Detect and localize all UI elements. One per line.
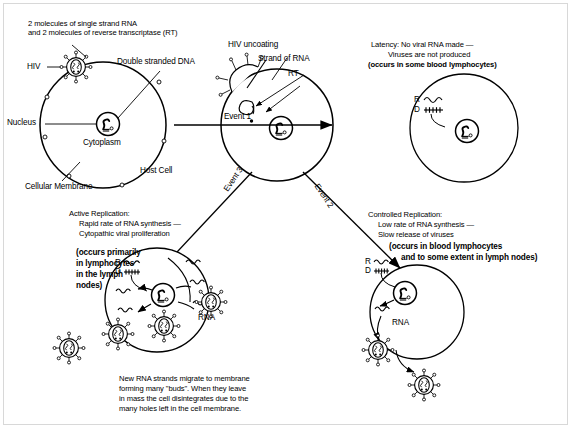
controlled-replication-paren1: (occurs in blood lymphocytes — [389, 242, 502, 252]
rna-rt-note-label: 2 molecules of single strand RNA and 2 m… — [28, 20, 177, 38]
latency-line1: Latency: No viral RNA made — — [371, 41, 473, 50]
active-replication-paren4: nodes) — [76, 281, 102, 291]
caption-line3: in mass the cell disintegrates due to th… — [119, 395, 248, 404]
active-replication-paren2: in lymphocytes — [76, 259, 134, 269]
latency-dna-key: D — [414, 105, 420, 115]
controlled-replication-line1: Controlled Replication: — [368, 211, 442, 220]
dna-ladder-icon — [374, 269, 389, 274]
double-stranded-dna-label: Double stranded DNA — [117, 57, 195, 67]
active-replication-line1: Active Replication: — [69, 210, 130, 219]
strand-of-rna-label: Strand of RNA — [258, 54, 310, 64]
host-cell-label: Host Cell — [140, 166, 172, 176]
hiv-label: HIV — [27, 62, 40, 72]
caption-line4: many holes left in the cell membrane. — [119, 405, 241, 414]
controlled-replication-line3: Slow release of viruses — [378, 231, 454, 240]
host-cell-latency — [410, 74, 518, 182]
dna-ladder-icon — [124, 269, 140, 274]
rna-squiggle-icon — [374, 260, 388, 264]
controlled-dna-key: D — [365, 266, 371, 276]
latency-line3: (occurs in some blood lymphocytes) — [368, 61, 497, 70]
latency-line2: Viruses are not produced — [388, 51, 470, 60]
rna-label-left: RNA — [198, 313, 215, 323]
rt-label: RT — [288, 69, 299, 79]
active-dna-key: D — [115, 267, 121, 277]
rna-label-right: RNA — [392, 318, 409, 328]
event1-label: Event 1 — [224, 112, 251, 122]
caption-line2: forming many "buds". When they leave — [119, 385, 246, 394]
hiv-replication-diagram: 2 molecules of single strand RNA and 2 m… — [0, 0, 572, 429]
active-replication-paren1: (occurs primarily — [76, 248, 141, 258]
active-replication-line2: Rapid rate of RNA synthesis — — [79, 220, 181, 229]
controlled-replication-line2: Low rate of RNA synthesis — — [378, 221, 474, 230]
hiv-virion-attached — [60, 51, 92, 83]
cellular-membrane-label: Cellular Membrane — [25, 182, 92, 192]
controlled-replication-paren2: and to some extent in lymph nodes) — [401, 253, 537, 263]
active-replication-line3: Cytopathic viral proliferation — [79, 230, 170, 239]
cytoplasm-label: Cytoplasm — [83, 138, 121, 148]
caption-line1: New RNA strands migrate to membrane — [119, 375, 250, 384]
latency-rna-key: R — [414, 95, 420, 105]
nucleus-label: Nucleus — [7, 118, 36, 128]
hiv-uncoating-label: HIV uncoating — [228, 40, 278, 50]
